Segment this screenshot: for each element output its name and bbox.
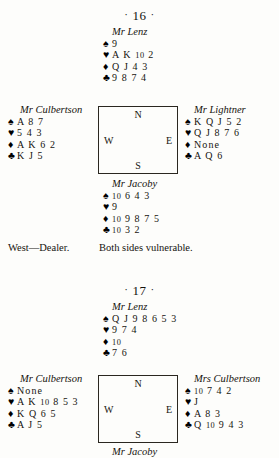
spade-icon: ♠ [8,116,17,127]
book-page: ·16· Mr Lenz ♠ 9 ♥ A K 10 2 ♦ Q J 4 3 ♣ … [0,0,279,458]
deal-16-north-spades: 9 [112,38,118,49]
club-icon: ♣ [8,419,17,430]
deal-17-number: ·17· [0,283,279,299]
heart-icon: ♥ [8,127,17,138]
heart-icon: ♥ [8,396,17,407]
deal-17-east-spades: 10 7 4 2 [194,385,232,397]
deal-17-west-diamonds-row: ♦ K Q 6 5 [8,408,82,419]
deal-17-east-clubs-row: ♣ Q 10 9 4 3 [185,419,260,430]
compass-north-label: N [134,378,141,389]
diamond-icon: ♦ [185,139,194,150]
deal-16-west-diamonds-row: ♦ A K 6 2 [8,139,82,150]
deal-17-west-hand: Mr Culbertson ♠ None ♥ A K 10 8 5 3 ♦ K … [8,373,82,431]
spade-icon: ♠ [103,313,112,324]
deal-17-dot-right: · [147,283,159,295]
diamond-icon: ♦ [8,408,17,419]
deal-16-west-spades-row: ♠ A 8 7 [8,116,82,127]
spade-icon: ♠ [103,38,112,49]
deal-16-east-diamonds: None [194,139,220,150]
heart-icon: ♥ [103,49,112,60]
deal-16-west-spades: A 8 7 [17,116,44,127]
deal-17-dot-left: · [120,283,132,295]
spade-icon: ♠ [185,116,194,127]
deal-17-west-hearts-row: ♥ A K 10 8 5 3 [8,396,82,407]
compass-west-label: W [104,135,113,146]
deal-16-north-hearts-row: ♥ A K 10 2 [103,49,154,60]
deal-16-compass-box: N W E S [98,106,178,174]
deal-17-north-spades: Q J 9 8 6 5 3 [112,313,177,324]
deal-16-south-clubs-row: ♣ 10 3 2 [103,224,160,235]
spade-icon: ♠ [103,190,112,201]
deal-17-north-hearts-row: ♥ 9 7 4 [103,324,177,335]
deal-16-east-spades-row: ♠ K Q J 5 2 [185,116,246,127]
deal-17-north-clubs: 7 6 [112,347,128,358]
club-icon: ♣ [185,150,194,161]
deal-17-compass-box: N W E S [98,375,178,443]
deal-17-north-hand: Mr Lenz ♠ Q J 9 8 6 5 3 ♥ 9 7 4 ♦ 10 ♣ 7… [103,301,177,359]
compass-west-label: W [104,404,113,415]
deal-16-east-clubs-row: ♣ A Q 6 [185,150,246,161]
deal-16-north-spades-row: ♠ 9 [103,38,154,49]
deal-16-west-clubs-row: ♣ K J 5 [8,150,82,161]
deal-16-east-hearts: Q J 8 7 6 [194,127,240,138]
heart-icon: ♥ [103,324,112,335]
deal-17-east-hand: Mrs Culbertson ♠ 10 7 4 2 ♥ J ♦ A 8 3 ♣ … [185,373,260,431]
deal-16-west-diamonds: A K 6 2 [17,139,56,150]
deal-17-east-spades-row: ♠ 10 7 4 2 [185,385,260,396]
deal-17-north-hearts: 9 7 4 [112,324,138,335]
deal-16-west-hand: Mr Culbertson ♠ A 8 7 ♥ 5 4 3 ♦ A K 6 2 … [8,104,82,162]
deal-16-south-spades-row: ♠ 10 6 4 3 [103,190,160,201]
deal-17-north-clubs-row: ♣ 7 6 [103,347,177,358]
deal-16-east-player: Mr Lightner [194,104,246,115]
deal-17-east-hearts-row: ♥ J [185,396,260,407]
club-icon: ♣ [103,72,112,83]
diamond-icon: ♦ [103,61,112,72]
deal-16-east-diamonds-row: ♦ None [185,139,246,150]
deal-16-south-clubs: 10 3 2 [112,224,141,236]
deal-16-south-diamonds-row: ♦ 10 9 8 7 5 [103,213,160,224]
deal-16-south-hearts-row: ♥ 9 [103,201,160,212]
diamond-icon: ♦ [185,408,194,419]
deal-16-number: ·16· [0,8,279,24]
deal-17-east-hearts: J [194,396,199,407]
deal-17-east-diamonds-row: ♦ A 8 3 [185,408,260,419]
deal-16-east-clubs: A Q 6 [194,150,223,161]
deal-16-north-clubs-row: ♣ 9 8 7 4 [103,72,154,83]
deal-16-north-clubs: 9 8 7 4 [112,72,147,83]
heart-icon: ♥ [185,396,194,407]
compass-east-label: E [166,135,172,146]
compass-east-label: E [166,404,172,415]
heart-icon: ♥ [185,127,194,138]
club-icon: ♣ [185,419,194,430]
deal-17-west-spades-row: ♠ None [8,385,82,396]
deal-17-west-diamonds: K Q 6 5 [17,408,57,419]
deal-17-west-player: Mr Culbertson [20,373,82,384]
deal-17-north-spades-row: ♠ Q J 9 8 6 5 3 [103,313,177,324]
deal-16-east-hand: Mr Lightner ♠ K Q J 5 2 ♥ Q J 8 7 6 ♦ No… [185,104,246,162]
heart-icon: ♥ [103,201,112,212]
club-icon: ♣ [8,150,17,161]
deal-16-west-clubs: K J 5 [17,150,44,161]
compass-north-label: N [134,109,141,120]
deal-16-east-hearts-row: ♥ Q J 8 7 6 [185,127,246,138]
deal-17-west-clubs: A J 5 [17,419,43,430]
deal-17-west-spades: None [17,385,43,396]
deal-17: ·17· Mr Lenz ♠ Q J 9 8 6 5 3 ♥ 9 7 4 ♦ 1… [0,283,279,299]
deal-16-dot-left: · [120,8,132,20]
spade-icon: ♠ [8,385,17,396]
deal-17-east-diamonds: A 8 3 [194,408,221,419]
spade-icon: ♠ [185,385,194,396]
deal-16-vulnerability: Both sides vulnerable. [99,242,193,253]
deal-16-west-hearts: 5 4 3 [17,127,43,138]
deal-16-east-spades: K Q J 5 2 [194,116,242,127]
deal-16-number-value: 16 [133,8,147,23]
deal-17-south-player: Mr Jacoby [112,446,157,457]
deal-16-north-player: Mr Lenz [112,26,154,37]
diamond-icon: ♦ [103,336,112,347]
deal-16-south-hearts: 9 [112,201,118,212]
deal-16: ·16· Mr Lenz ♠ 9 ♥ A K 10 2 ♦ Q J 4 3 ♣ … [0,8,279,24]
deal-17-number-value: 17 [133,283,147,298]
deal-16-dot-right: · [147,8,159,20]
deal-17-east-player: Mrs Culbertson [194,373,260,384]
deal-17-north-diamonds-row: ♦ 10 [103,336,177,347]
